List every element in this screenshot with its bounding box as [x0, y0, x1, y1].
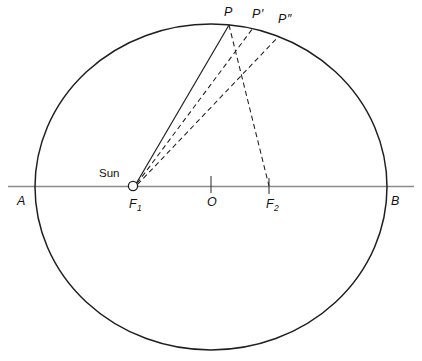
sun-marker-icon [128, 181, 137, 190]
vertex-a-label: A [16, 194, 25, 208]
kepler-ellipse-figure: Sun A B O F 1 F 2 P P ′ P ″ [0, 0, 422, 361]
center-o-label: O [207, 195, 217, 209]
vertex-b-label: B [391, 194, 399, 208]
point-p-prime-mark: ′ [261, 7, 264, 21]
focus1-label-group: F 1 [129, 197, 142, 213]
point-p-dprime-label-group: P ″ [278, 12, 292, 26]
focus2-label-group: F 2 [266, 197, 279, 213]
point-p-dprime-mark: ″ [287, 12, 292, 26]
focus2-subscript: 2 [273, 203, 279, 213]
radius-vector-f1-to-p-dprime [138, 36, 280, 185]
point-p-dprime-label: P [278, 12, 287, 26]
orbit-diagram-canvas: Sun A B O F 1 F 2 P P ′ P ″ [0, 0, 422, 361]
focus1-subscript: 1 [137, 203, 142, 213]
point-p-prime-label: P [252, 7, 261, 21]
line-p-to-f2 [229, 25, 269, 186]
point-p-label: P [224, 5, 233, 19]
sun-label: Sun [99, 167, 119, 179]
point-p-prime-label-group: P ′ [252, 7, 264, 21]
radius-vector-f1-to-p [137, 25, 230, 183]
